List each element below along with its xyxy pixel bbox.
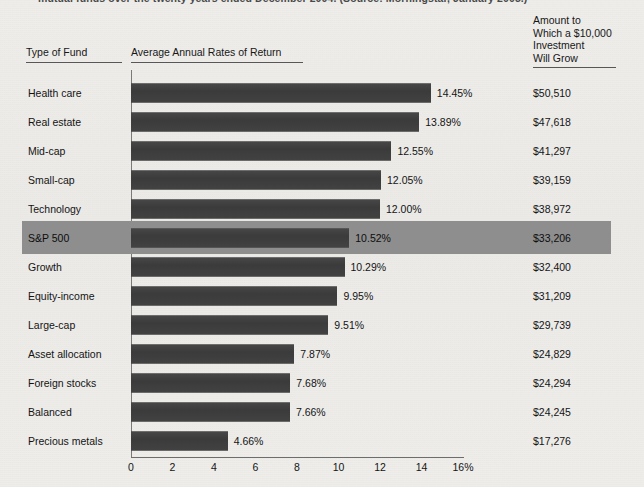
return-bar [131,83,431,102]
fund-type-label: S&P 500 [28,232,69,244]
return-bar [131,228,349,247]
fund-type-label: Equity-income [28,290,95,302]
return-value-label: 12.55% [397,145,433,157]
chart-row[interactable]: Balanced7.66%$24,245 [0,398,644,427]
x-axis-tick-label: 0 [128,461,134,473]
return-bar [131,286,337,305]
return-bar [131,315,328,334]
return-value-label: 10.29% [351,261,387,273]
return-bar [131,374,290,393]
fund-type-label: Small-cap [28,174,75,186]
x-axis-tick-label: 14 [416,461,428,473]
chart-row[interactable]: Large-cap9.51%$29,739 [0,310,644,339]
fund-type-label: Balanced [28,406,72,418]
chart-row[interactable]: Growth10.29%$32,400 [0,252,644,281]
return-value-label: 7.87% [300,348,330,360]
x-axis-tick-label: 12 [374,461,386,473]
chart-row[interactable]: Real estate13.89%$47,618 [0,107,644,136]
fund-type-label: Real estate [28,116,81,128]
growth-amount-label: $32,400 [533,261,571,273]
return-value-label: 7.68% [296,377,326,389]
fund-type-label: Large-cap [28,319,75,331]
growth-amount-label: $29,739 [533,319,571,331]
x-axis-tick-label: 4 [211,461,217,473]
chart-row[interactable]: Technology12.00%$38,972 [0,194,644,223]
return-bar [131,112,419,131]
growth-amount-label: $39,159 [533,174,571,186]
return-value-label: 9.95% [343,290,373,302]
return-value-label: 7.66% [296,406,326,418]
return-value-label: 10.52% [355,232,391,244]
return-bar [131,344,294,363]
growth-amount-label: $41,297 [533,145,571,157]
chart-row[interactable]: Asset allocation7.87%$24,829 [0,339,644,368]
fund-type-label: Asset allocation [28,348,102,360]
x-axis-tick-label: 6 [253,461,259,473]
chart-row[interactable]: Small-cap12.05%$39,159 [0,165,644,194]
growth-amount-label: $38,972 [533,203,571,215]
return-value-label: 9.51% [334,319,364,331]
growth-amount-label: $31,209 [533,290,571,302]
fund-type-label: Foreign stocks [28,377,96,389]
fund-type-label: Mid-cap [28,145,65,157]
x-axis-tick-label: 8 [294,461,300,473]
return-bar [131,141,391,160]
growth-amount-label: $24,294 [533,377,571,389]
chart-row[interactable]: Foreign stocks7.68%$24,294 [0,369,644,398]
chart-row[interactable]: Equity-income9.95%$31,209 [0,281,644,310]
x-axis-tick-label: 10 [333,461,345,473]
return-value-label: 4.66% [234,435,264,447]
growth-amount-label: $50,510 [533,87,571,99]
return-bar [131,170,381,189]
growth-amount-label: $47,618 [533,116,571,128]
growth-amount-label: $17,276 [533,435,571,447]
return-value-label: 14.45% [437,87,473,99]
return-value-label: 12.05% [387,174,423,186]
chart-row[interactable]: Health care14.45%$50,510 [0,78,644,107]
return-value-label: 12.00% [386,203,422,215]
return-bar [131,257,345,276]
chart-row[interactable]: Mid-cap12.55%$41,297 [0,136,644,165]
return-bar [131,432,228,451]
x-axis-tick-label: 16% [452,461,473,473]
fund-type-label: Technology [28,203,81,215]
x-axis-tick-label: 2 [170,461,176,473]
return-bar [131,403,290,422]
growth-amount-label: $24,245 [533,406,571,418]
fund-type-label: Health care [28,87,82,99]
fund-type-label: Growth [28,261,62,273]
return-bar [131,199,380,218]
growth-amount-label: $33,206 [533,232,571,244]
return-value-label: 13.89% [425,116,461,128]
fund-type-label: Precious metals [28,435,103,447]
chart-x-axis-line [131,457,464,458]
growth-amount-label: $24,829 [533,348,571,360]
chart-row[interactable]: Precious metals4.66%$17,276 [0,427,644,456]
bar-chart-plot-area: Health care14.45%$50,510Real estate13.89… [0,0,644,487]
chart-row[interactable]: S&P 50010.52%$33,206 [0,223,644,252]
